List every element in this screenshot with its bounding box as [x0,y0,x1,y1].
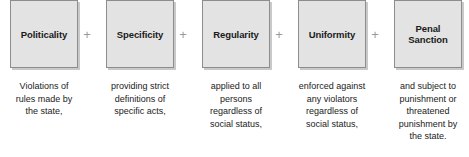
node-uniformity: Uniformity enforced against any violator… [298,0,366,130]
node-politicality: Politicality Violations of rules made by… [10,0,78,118]
node-specificity: Specificity providing strict definitions… [106,0,174,118]
node-box-specificity[interactable]: Specificity [106,0,174,68]
node-caption-politicality: Violations of rules made by the state, [4,80,84,118]
characteristics-of-law-diagram: Politicality Violations of rules made by… [0,0,469,157]
node-chain: Politicality Violations of rules made by… [0,0,469,143]
node-label-politicality: Politicality [21,29,67,40]
node-caption-specificity: providing strict definitions of specific… [100,80,180,118]
node-box-regularity[interactable]: Regularity [202,0,270,68]
node-label-specificity: Specificity [117,29,163,40]
plus-operator-icon-1: + [78,0,96,68]
node-label-penal-sanction: Penal Sanction [408,23,447,45]
node-regularity: Regularity applied to all persons regard… [202,0,270,130]
node-caption-uniformity: enforced against any violators regardles… [292,80,372,130]
node-box-uniformity[interactable]: Uniformity [298,0,366,68]
node-box-penal-sanction[interactable]: Penal Sanction [394,0,462,68]
node-label-uniformity: Uniformity [309,29,356,40]
plus-operator-icon-2: + [174,0,192,68]
node-caption-penal-sanction: and subject to punishment or threatened … [388,80,468,143]
node-box-politicality[interactable]: Politicality [10,0,78,68]
plus-operator-icon-4: + [366,0,384,68]
node-penal-sanction: Penal Sanction and subject to punishment… [394,0,462,143]
plus-operator-icon-3: + [270,0,288,68]
node-label-regularity: Regularity [213,29,258,40]
node-caption-regularity: applied to all persons regardless of soc… [196,80,276,130]
